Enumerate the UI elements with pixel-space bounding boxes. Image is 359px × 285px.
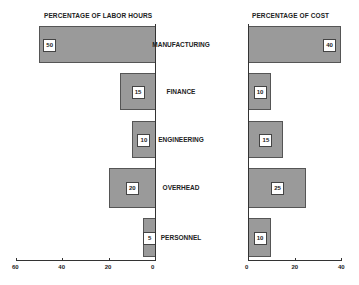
right-tick-label: 40: [338, 264, 345, 270]
right-value-label: 10: [254, 232, 267, 245]
tick-mark: [16, 258, 17, 261]
right-y-axis: [248, 24, 249, 261]
tick-mark: [341, 258, 342, 261]
category-label: ENGINEERING: [141, 136, 221, 143]
right-value-label: 10: [254, 86, 267, 99]
left-value-label: 20: [126, 182, 139, 195]
right-value-label: 25: [271, 182, 284, 195]
tick-mark: [109, 258, 110, 261]
tick-mark: [295, 258, 296, 261]
right-tick-label: 20: [292, 264, 299, 270]
left-tick-label: 20: [105, 264, 112, 270]
tick-mark: [62, 258, 63, 261]
left-x-axis: [16, 260, 156, 261]
right-tick-label: 0: [245, 264, 248, 270]
left-y-axis: [155, 24, 156, 261]
left-bar-manufacturing: [39, 26, 156, 63]
category-label: FINANCE: [141, 88, 221, 95]
right-chart-title: PERCENTAGE OF COST: [252, 12, 329, 19]
tick-mark: [248, 258, 249, 261]
category-label: PERSONNEL: [141, 234, 221, 241]
left-chart-title: PERCENTAGE OF LABOR HOURS: [44, 12, 152, 19]
right-value-label: 40: [323, 39, 336, 52]
left-tick-label: 0: [151, 264, 154, 270]
left-value-label: 50: [43, 39, 56, 52]
tick-mark: [155, 258, 156, 261]
left-tick-label: 40: [58, 264, 65, 270]
category-label: MANUFACTURING: [141, 41, 221, 48]
left-tick-label: 60: [12, 264, 19, 270]
right-value-label: 15: [259, 134, 272, 147]
category-label: OVERHEAD: [141, 184, 221, 191]
